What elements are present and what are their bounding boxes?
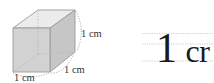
width-label: 1 cm [14,73,35,83]
guide-number: 1 [156,25,177,71]
height-label: 1 cm [81,29,102,40]
unit-cube-diagram: 1 cm 1 cm 1 cm 1cr [0,0,214,83]
depth-label: 1 cm [64,65,85,76]
cube-front-face [13,28,50,72]
guide-unit: cr [186,33,210,69]
unit-guide-text: 1cr [156,27,209,69]
